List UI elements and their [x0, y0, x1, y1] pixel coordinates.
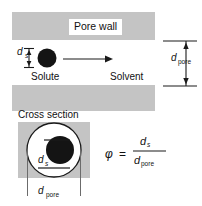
bottom-pore-wall-band	[12, 85, 155, 111]
solute-label: Solute	[31, 72, 59, 82]
ds-symbol-top: d	[17, 47, 23, 57]
dpore-symbol-bottom: d	[38, 186, 44, 196]
formula-numerator-subscript: s	[147, 142, 150, 149]
ds-subscript-top: s	[25, 53, 28, 60]
solute-particle-icon	[38, 49, 57, 68]
equals-symbol: =	[119, 148, 126, 160]
dpore-subscript-right: pore	[178, 59, 191, 66]
pore-wall-label: Pore wall	[69, 19, 122, 35]
dpore-arrow-bottom-head	[183, 78, 188, 85]
phi-symbol: φ	[105, 148, 113, 160]
ds-subscript-cross-section: s	[45, 161, 48, 168]
dpore-arrow-top-head	[183, 43, 188, 50]
dpore-subscript-bottom: pore	[46, 192, 59, 199]
formula-denominator-subscript: pore	[141, 161, 154, 168]
ds-symbol-cross-section: d	[38, 155, 44, 165]
cross-section-title: Cross section	[18, 110, 79, 120]
formula-numerator-symbol: d	[140, 136, 146, 147]
ds-arrow-bottom-head	[27, 61, 32, 66]
dpore-symbol-right: d	[171, 53, 177, 63]
formula-denominator-symbol: d	[134, 155, 140, 166]
arrow-right-icon	[63, 56, 113, 63]
solvent-label: Solvent	[110, 72, 143, 82]
